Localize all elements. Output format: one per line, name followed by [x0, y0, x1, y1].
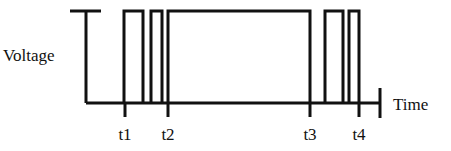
axes — [70, 11, 381, 118]
pulse-3 — [168, 11, 310, 103]
pulse-2 — [151, 11, 162, 103]
y-axis-label: Voltage — [3, 46, 55, 65]
time-marker-labels: t1t2t3t4 — [118, 125, 366, 144]
pulse-1 — [124, 11, 143, 103]
marker-label-t1: t1 — [118, 125, 131, 144]
marker-label-t3: t3 — [303, 125, 316, 144]
pulse-5 — [349, 11, 359, 103]
pulse-train — [124, 11, 359, 103]
x-axis-label: Time — [393, 95, 428, 114]
marker-label-t2: t2 — [161, 125, 174, 144]
marker-label-t4: t4 — [352, 125, 366, 144]
waveform-diagram: t1t2t3t4 Voltage Time — [0, 0, 451, 151]
time-marker-ticks — [125, 103, 359, 117]
pulse-4 — [325, 11, 343, 103]
